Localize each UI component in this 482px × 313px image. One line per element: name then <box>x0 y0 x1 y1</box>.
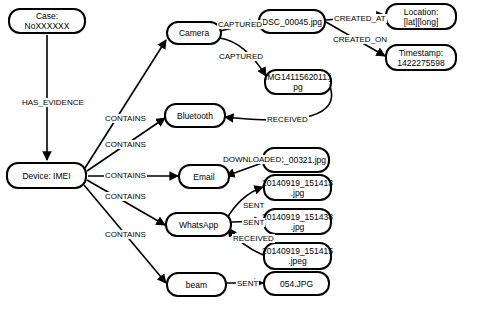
label-contains-camera: CONTAINS <box>104 114 147 123</box>
label-received-bt: RECEIVED <box>266 115 309 124</box>
node-bluetooth: Bluetooth <box>164 103 226 128</box>
node-timestamp: Timestamp: 1422275598 <box>385 44 457 71</box>
evidence-graph: Case: NoXXXXXX Device: IMEI Camera Bluet… <box>0 0 482 313</box>
node-whatsapp: WhatsApp <box>165 212 232 237</box>
node-img1411562011: IMG1411562011.j pg <box>264 69 332 95</box>
label-contains-beam: CONTAINS <box>104 230 147 239</box>
node-dsc00045: DSC_00045.jpg <box>258 9 326 34</box>
label-contains-email: CONTAINS <box>104 171 147 180</box>
label-sent-1: SENT <box>242 201 265 210</box>
label-captured-1: CAPTURED <box>217 20 263 29</box>
label-downloaded: DOWNLOADED <box>222 155 282 164</box>
node-device: Device: IMEI <box>6 162 87 189</box>
edge-downloaded <box>226 163 262 176</box>
label-sent-beam: SENT <box>236 279 259 288</box>
node-wa-151415: 20140919_151415 .jpeg <box>263 242 332 270</box>
node-054: 054.JPG <box>263 271 330 296</box>
label-received-wa: RECEIVED <box>232 234 275 243</box>
node-case: Case: NoXXXXXX <box>8 8 86 34</box>
label-sent-2: SENT <box>242 218 265 227</box>
node-wa-151438: 20140919_151438 .jpg <box>263 208 332 235</box>
label-contains-whatsapp: CONTAINS <box>104 192 147 201</box>
node-beam: beam <box>166 272 227 297</box>
node-wa-151413: 20140919_151413 .jpg <box>263 174 332 201</box>
node-location: Location: [lat][long] <box>385 3 457 30</box>
label-created-on: CREATED_ON <box>332 35 388 44</box>
node-email: Email <box>178 164 230 189</box>
label-contains-bluetooth: CONTAINS <box>104 140 147 149</box>
label-has-evidence: HAS_EVIDENCE <box>21 98 85 107</box>
label-created-at: CREATED_AT <box>333 14 387 23</box>
node-camera: Camera <box>166 21 222 45</box>
label-captured-2: CAPTURED <box>218 52 264 61</box>
